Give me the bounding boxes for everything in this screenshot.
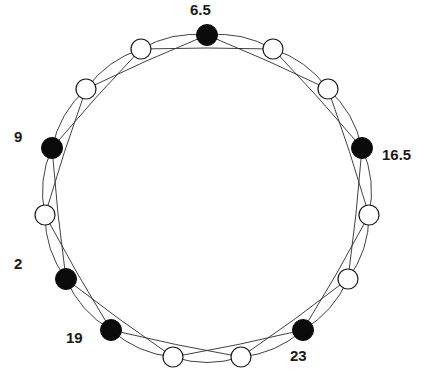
graph-node-white[interactable]	[338, 269, 358, 289]
node-value-label: 6.5	[190, 2, 211, 17]
graph-node-white[interactable]	[163, 347, 183, 367]
nodes-layer	[35, 25, 379, 368]
graph-node-black[interactable]	[42, 138, 63, 159]
node-value-label: 23	[290, 348, 307, 363]
graph-node-white[interactable]	[359, 205, 379, 225]
graph-node-black[interactable]	[352, 138, 373, 159]
graph-node-white[interactable]	[76, 79, 96, 99]
node-value-label: 9	[14, 129, 22, 144]
graph-node-white[interactable]	[231, 347, 251, 367]
graph-node-black[interactable]	[101, 320, 122, 341]
node-value-label: 2	[14, 256, 22, 271]
node-value-label: 19	[66, 330, 83, 345]
graph-edge-chord	[241, 279, 348, 357]
graph-figure: 6.516.5231929	[0, 0, 430, 384]
circular-graph-canvas	[0, 0, 430, 384]
node-value-label: 16.5	[382, 147, 411, 162]
graph-node-white[interactable]	[318, 79, 338, 99]
graph-node-black[interactable]	[56, 269, 77, 290]
graph-edge-chord	[52, 49, 141, 148]
graph-node-white[interactable]	[131, 39, 151, 59]
graph-node-black[interactable]	[293, 320, 314, 341]
graph-edge-chord	[303, 215, 369, 330]
graph-node-white[interactable]	[35, 205, 55, 225]
graph-node-white[interactable]	[263, 39, 283, 59]
graph-edge-chord	[141, 48, 273, 49]
graph-node-black[interactable]	[197, 25, 218, 46]
graph-edge-chord	[273, 49, 362, 148]
graph-edge-chord	[45, 215, 111, 330]
